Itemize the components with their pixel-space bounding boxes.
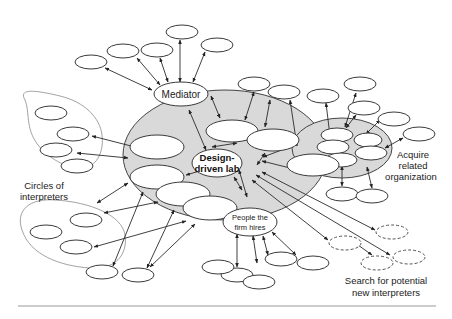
interpreter-node <box>61 159 93 173</box>
potential-interpreter-node <box>329 236 361 250</box>
hires-label-line2: firm hires <box>235 223 266 232</box>
mediator-contact-node <box>107 44 139 58</box>
mediator-contact-node <box>166 25 198 39</box>
hire-contact-node <box>202 260 234 274</box>
network-node <box>268 85 300 99</box>
mediator-contact-node <box>75 55 107 69</box>
hire-contact-node <box>297 256 329 270</box>
network-node <box>344 77 376 91</box>
lab-label-line2: driven lab <box>195 163 240 174</box>
interpreter-node <box>60 240 92 254</box>
lab-label-line1: Design- <box>200 152 235 163</box>
mediator-label: Mediator <box>162 89 202 100</box>
interpreter-node <box>30 225 62 239</box>
acquired-org-node <box>326 187 358 201</box>
design-driven-lab-network-diagram: Mediator Design- driven lab People the f… <box>0 0 452 319</box>
potential-interpreter-node <box>376 225 408 239</box>
lab-member-node <box>130 135 184 159</box>
hire-contact-node <box>243 275 275 289</box>
hires-label-line1: People the <box>232 213 268 222</box>
acquire-label-line2: related <box>398 160 427 171</box>
acquired-org-node <box>356 189 388 203</box>
acquired-org-member-node <box>355 146 387 160</box>
interpreter-node <box>70 213 102 227</box>
interpreter-node <box>57 127 89 141</box>
potential-interpreter-node <box>361 256 393 270</box>
lab-member-node <box>247 129 299 151</box>
interpreter-node <box>40 143 72 157</box>
mediator-contact-node <box>141 43 173 57</box>
lab-member-node <box>287 154 339 176</box>
network-node <box>307 89 339 103</box>
network-node <box>238 77 270 91</box>
mediator-contact-node <box>201 38 233 52</box>
acquired-org-member-node <box>317 140 349 154</box>
search-label-line2: new interpreters <box>352 287 420 298</box>
acquire-label-line1: Acquire <box>397 149 429 160</box>
circles-label-line1: Circles of <box>24 180 64 191</box>
acquired-org-member-node <box>354 133 382 147</box>
search-label-line1: Search for potential <box>345 275 427 286</box>
network-node <box>378 112 410 126</box>
network-node <box>403 127 435 141</box>
interpreter-node <box>122 268 154 282</box>
hire-contact-node <box>265 252 297 266</box>
circles-label-line2: interpreters <box>20 191 68 202</box>
potential-interpreter-node <box>393 250 425 264</box>
interpreter-node <box>35 106 67 120</box>
acquire-label-line3: organization <box>385 171 437 182</box>
interpreter-node <box>86 265 118 279</box>
network-node <box>348 101 380 115</box>
